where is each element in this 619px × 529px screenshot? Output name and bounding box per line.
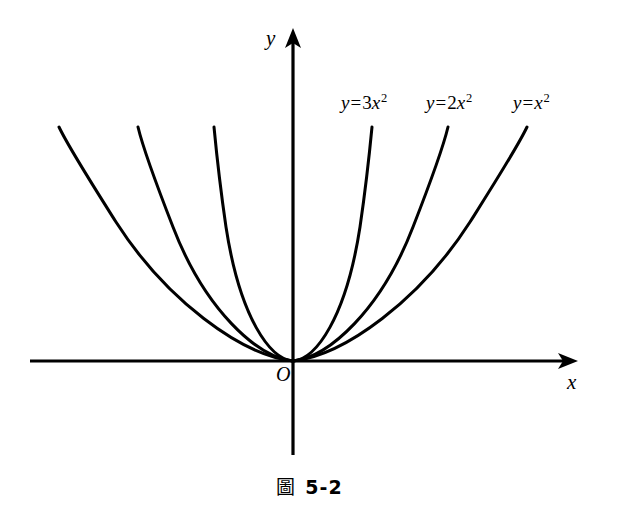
curve-label-3x2-coefficient: 3 (362, 92, 372, 113)
curve-label-2x2: y=2x2 (426, 92, 472, 114)
curve-y-eq-x2-left (59, 127, 293, 361)
curve-label-3x2-exponent: 2 (381, 91, 387, 105)
curve-label-3x2-variable: x (372, 92, 380, 113)
curve-label-2x2-coefficient: 2 (447, 92, 457, 113)
x-axis-label: x (567, 372, 576, 393)
curve-label-x2-lhs: y (513, 92, 521, 113)
origin-label: O (276, 364, 290, 384)
figure-container: y x O y=3x2 y=2x2 y=x2 圖5-2 (0, 0, 619, 529)
curve-label-3x2: y=3x2 (341, 92, 387, 114)
curve-y-eq-3x2-right (293, 127, 372, 361)
figure-caption: 圖5-2 (0, 472, 619, 499)
curve-label-3x2-equals: = (350, 92, 361, 113)
curve-label-2x2-equals: = (435, 92, 446, 113)
axes-group (30, 28, 578, 455)
curve-label-2x2-variable: x (457, 92, 465, 113)
y-axis-label: y (266, 28, 275, 49)
curve-label-x2-equals: = (522, 92, 533, 113)
curve-label-2x2-lhs: y (426, 92, 434, 113)
curve-label-2x2-exponent: 2 (466, 91, 472, 105)
figure-caption-symbol: 圖 (276, 476, 296, 498)
curve-label-x2-exponent: 2 (544, 91, 550, 105)
parabola-plot (0, 0, 619, 529)
figure-caption-number: 5-2 (305, 476, 342, 498)
curve-label-x2: y=x2 (513, 92, 550, 114)
curve-label-x2-variable: x (534, 92, 542, 113)
curve-y-eq-x2-right (293, 127, 527, 361)
curve-label-3x2-lhs: y (341, 92, 349, 113)
curve-y-eq-3x2-left (214, 127, 293, 361)
